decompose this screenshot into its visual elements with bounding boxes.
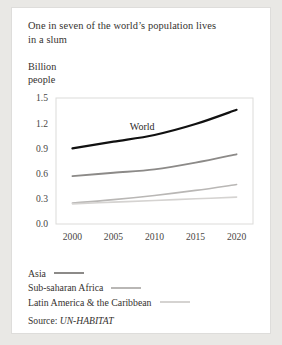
series-annotation-label: World <box>130 121 155 132</box>
chart-card: One in seven of the world’s population l… <box>11 7 271 334</box>
x-axis-tick-label: 2010 <box>145 231 164 242</box>
page-title-line-2: in a slum <box>28 33 260 47</box>
x-axis-tick-label: 2000 <box>63 231 82 242</box>
x-axis-tick-label: 2020 <box>227 231 246 242</box>
legend-item[interactable]: Sub-saharan Africa <box>28 281 264 296</box>
screenshot-root: One in seven of the world’s population l… <box>0 0 282 345</box>
y-axis-unit-line-2: people <box>28 74 56 87</box>
legend-swatch-line-icon <box>54 272 84 274</box>
page-title: One in seven of the world’s population l… <box>28 19 260 47</box>
y-axis-tick-label: 0.3 <box>36 193 48 204</box>
y-axis-tick-label: 0.9 <box>36 143 48 154</box>
source-name: UN-HABITAT <box>60 315 114 326</box>
y-axis-tick-label: 1.2 <box>36 118 48 129</box>
y-axis-tick-label: 0.6 <box>36 168 48 179</box>
y-axis-unit-line-1: Billion <box>28 61 56 74</box>
source-note: Source: UN-HABITAT <box>28 315 114 326</box>
legend-item-label: Latin America & the Caribbean <box>28 297 152 308</box>
x-axis-tick-label: 2005 <box>104 231 123 242</box>
page-title-line-1: One in seven of the world’s population l… <box>28 19 260 33</box>
legend-item-label: Asia <box>28 268 46 279</box>
legend-swatch-line-icon <box>111 287 141 289</box>
plot-frame <box>56 98 253 224</box>
y-axis-tick-labels: 0.00.30.60.91.21.5 <box>36 94 48 229</box>
legend-item[interactable]: Latin America & the Caribbean <box>28 295 264 310</box>
chart-annotations: World <box>130 121 155 132</box>
x-axis-tick-labels: 20002005201020152020 <box>63 231 247 242</box>
legend-item-label: Sub-saharan Africa <box>28 282 103 293</box>
plot-frame-rect <box>56 98 253 224</box>
legend-item[interactable]: Asia <box>28 266 264 281</box>
chart-plot-area: 0.00.30.60.91.21.5 20002005201020152020 … <box>12 94 271 246</box>
legend-swatch-line-icon <box>160 301 190 303</box>
chart-legend: AsiaSub-saharan AfricaLatin America & th… <box>28 266 264 310</box>
x-axis-tick-label: 2015 <box>186 231 205 242</box>
line-chart-svg: 0.00.30.60.91.21.5 20002005201020152020 … <box>12 94 271 246</box>
y-axis-tick-label: 0.0 <box>36 218 48 229</box>
y-axis-unit-label: Billion people <box>28 61 56 86</box>
source-prefix: Source: <box>28 315 57 326</box>
y-axis-tick-label: 1.5 <box>36 94 48 103</box>
